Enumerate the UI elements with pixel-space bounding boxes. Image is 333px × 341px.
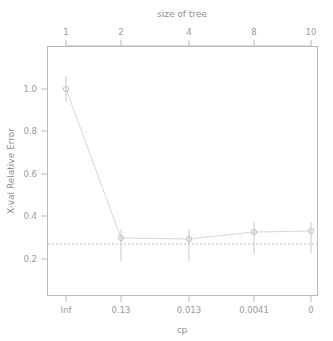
- y-tick-label-1.0: 1.0: [23, 84, 37, 94]
- y-tick-label-0.4: 0.4: [23, 211, 37, 221]
- bottom-tick-label-3: 0.0041: [239, 305, 269, 315]
- bottom-tick-label-4: 0: [308, 305, 313, 315]
- top-axis-title: size of tree: [157, 9, 207, 19]
- bottom-tick-label-1: 0.13: [112, 305, 131, 315]
- y-tick-label-0.2: 0.2: [23, 254, 37, 264]
- top-tick-label-2: 4: [186, 27, 191, 37]
- plot-canvas: 1 2 4 8 10 size of tree 1.0 0.8 0.6 0.4 …: [0, 0, 333, 341]
- bottom-tick-label-0: Inf: [61, 305, 73, 315]
- bottom-axis: Inf 0.13 0.013 0.0041 0 cp: [61, 296, 314, 335]
- top-tick-label-1: 2: [118, 27, 123, 37]
- y-tick-label-0.8: 0.8: [23, 126, 37, 136]
- top-axis: 1 2 4 8 10 size of tree: [63, 9, 316, 46]
- plot-frame: [48, 47, 318, 296]
- datapoint-group-0: [63, 76, 68, 102]
- top-tick-label-4: 10: [306, 27, 317, 37]
- bottom-tick-label-2: 0.013: [177, 305, 201, 315]
- top-tick-label-3: 8: [251, 27, 256, 37]
- datapoint-group-2: [186, 229, 191, 261]
- y-axis: 1.0 0.8 0.6 0.4 0.2 X-val Relative Error: [6, 84, 47, 264]
- top-tick-label-0: 1: [63, 27, 68, 37]
- datapoint-group-4: [308, 222, 313, 253]
- rpart-cp-plot: 1 2 4 8 10 size of tree 1.0 0.8 0.6 0.4 …: [0, 0, 333, 341]
- y-axis-title: X-val Relative Error: [6, 128, 16, 214]
- series-line-xval-error: [66, 89, 311, 239]
- datapoint-group-3: [251, 222, 256, 254]
- y-tick-label-0.6: 0.6: [23, 169, 37, 179]
- x-axis-title: cp: [177, 325, 188, 335]
